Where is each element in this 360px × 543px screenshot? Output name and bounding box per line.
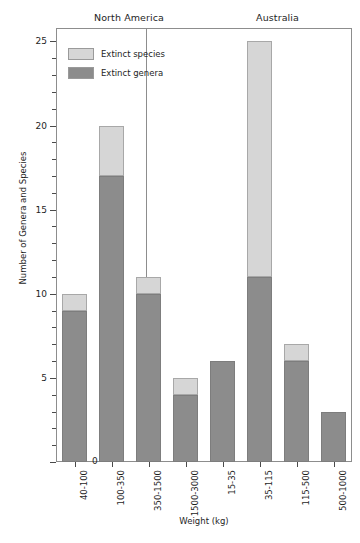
bar-group <box>210 28 235 462</box>
y-tick-minor <box>52 327 56 328</box>
y-tick-minor <box>52 142 56 143</box>
y-tick-minor <box>52 395 56 396</box>
bar-group <box>62 28 87 462</box>
bar-group <box>136 28 161 462</box>
bar-segment-genera <box>136 294 161 462</box>
legend-swatch-species <box>68 48 94 60</box>
y-tick-minor <box>52 277 56 278</box>
x-tick-label: 100-350 <box>116 470 126 506</box>
y-tick-major <box>50 294 56 295</box>
y-tick-label-15: 15 <box>36 205 47 215</box>
x-axis-title: Weight (kg) <box>56 516 352 526</box>
bar-group <box>173 28 198 462</box>
bar-segment-genera <box>210 361 235 462</box>
bar-group <box>321 28 346 462</box>
y-tick-minor <box>52 58 56 59</box>
y-tick-label-20: 20 <box>36 121 47 131</box>
x-tick-label: 115-500 <box>301 470 311 506</box>
y-tick-minor <box>52 92 56 93</box>
legend-label-species: Extinct species <box>101 49 165 59</box>
legend-item-species: Extinct species <box>68 45 188 62</box>
y-tick-minor <box>52 226 56 227</box>
bar-segment-species <box>247 41 272 277</box>
y-tick-minor <box>52 75 56 76</box>
x-tick <box>149 462 150 467</box>
y-tick-major <box>50 126 56 127</box>
x-tick-label: 1500-3000 <box>190 470 200 516</box>
legend-label-genera: Extinct genera <box>101 68 163 78</box>
bar-segment-species <box>173 378 198 395</box>
panel-title-australia: Australia <box>203 6 352 28</box>
y-tick-major <box>50 378 56 379</box>
x-tick-label: 500-1000 <box>338 470 348 511</box>
y-axis-title: Number of Genera and Species <box>18 103 28 333</box>
y-tick-minor <box>52 260 56 261</box>
x-tick-label: 15-35 <box>227 470 237 495</box>
chart-figure: North America Australia 510152025 Number… <box>0 0 360 543</box>
panel-strip-row: North America Australia <box>56 6 352 28</box>
bar-segment-genera <box>284 361 309 462</box>
y-tick-minor <box>52 428 56 429</box>
y-tick-minor <box>52 445 56 446</box>
x-tick <box>334 462 335 467</box>
bar-segment-genera <box>99 176 124 462</box>
bar-segment-genera <box>173 395 198 462</box>
bar-segment-genera <box>62 311 87 462</box>
y-tick-minor <box>52 311 56 312</box>
y-tick-minor <box>52 159 56 160</box>
x-tick <box>260 462 261 467</box>
legend-swatch-genera <box>68 67 94 79</box>
y-tick-minor <box>52 412 56 413</box>
y-tick-major <box>50 210 56 211</box>
bar-segment-genera <box>321 412 346 462</box>
bar-group <box>99 28 124 462</box>
y-tick-minor <box>52 344 56 345</box>
bar-segment-species <box>99 126 124 176</box>
x-tick-label: 35-115 <box>264 470 274 500</box>
y-tick-minor <box>52 361 56 362</box>
x-tick-label: 350-1500 <box>153 470 163 511</box>
panel-title-north-america: North America <box>56 6 202 28</box>
y-tick-minor <box>52 176 56 177</box>
x-tick <box>186 462 187 467</box>
legend-item-genera: Extinct genera <box>68 64 188 81</box>
y-tick-major <box>50 41 56 42</box>
bar-segment-species <box>284 344 309 361</box>
bar-group <box>284 28 309 462</box>
y-tick-label-0: 0 <box>92 456 98 466</box>
chart-legend: Extinct species Extinct genera <box>68 45 188 83</box>
x-tick <box>75 462 76 467</box>
x-tick-label: 40-100 <box>79 470 89 500</box>
x-axis: 0 40-100100-350350-15001500-300015-3535-… <box>56 462 352 543</box>
x-tick <box>297 462 298 467</box>
x-tick <box>223 462 224 467</box>
y-tick-minor <box>52 109 56 110</box>
y-tick-minor <box>52 193 56 194</box>
y-tick-label-25: 25 <box>36 36 47 46</box>
x-tick <box>112 462 113 467</box>
y-tick-minor <box>52 243 56 244</box>
bar-segment-genera <box>247 277 272 462</box>
y-tick-label-10: 10 <box>36 289 47 299</box>
bar-group <box>247 28 272 462</box>
bar-segment-species <box>136 277 161 294</box>
bar-segment-species <box>62 294 87 311</box>
y-axis: 510152025 <box>0 28 56 463</box>
y-tick-label-5: 5 <box>41 373 47 383</box>
